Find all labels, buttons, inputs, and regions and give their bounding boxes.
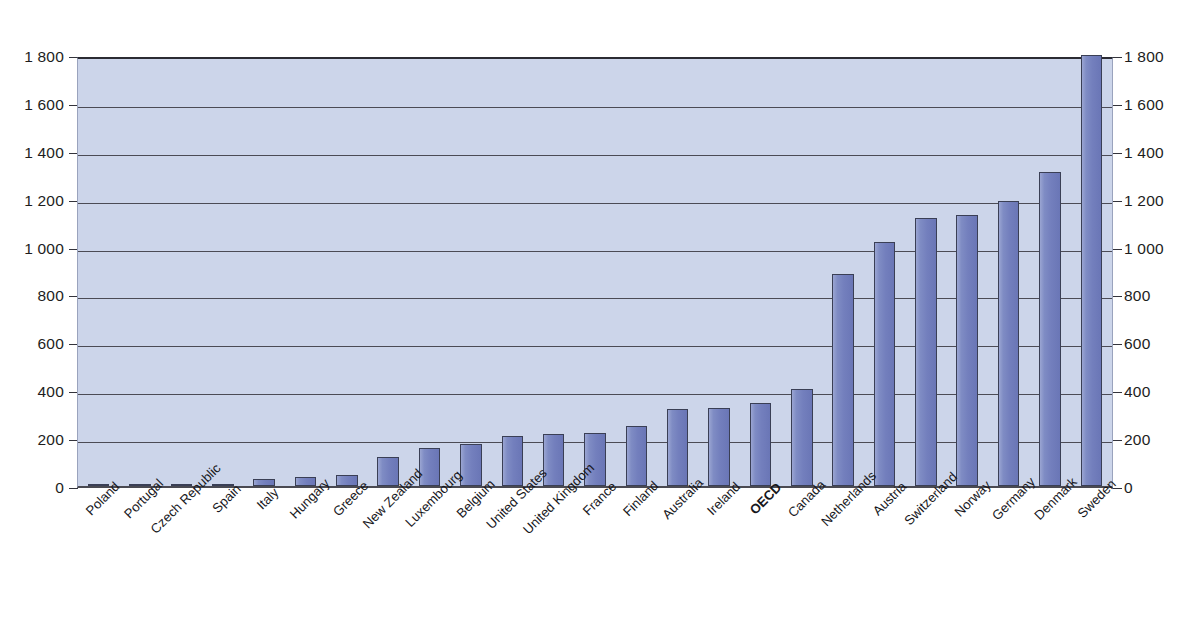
bar-ireland — [708, 408, 730, 486]
bar-slot — [740, 59, 781, 486]
bar-finland — [626, 426, 648, 486]
x-label-italy: Italy — [255, 485, 281, 511]
y-tick-left-600: 600 — [2, 336, 64, 352]
y-tick-left-800: 800 — [2, 288, 64, 304]
x-slot: Sweden — [1072, 490, 1113, 620]
bar-slot — [450, 59, 491, 486]
bar-slot — [905, 59, 946, 486]
y-tick-left-1600: 1 600 — [2, 97, 64, 113]
y-tick-right-1600: 1 600 — [1124, 97, 1186, 113]
bar-germany — [998, 201, 1020, 486]
y-tick-right-800: 800 — [1124, 288, 1186, 304]
bar-sweden — [1081, 55, 1103, 486]
tick-mark — [1113, 344, 1122, 345]
tick-mark — [1113, 249, 1122, 250]
x-slot: Portugal — [118, 490, 159, 620]
x-slot: Poland — [77, 490, 118, 620]
y-tick-right-1400: 1 400 — [1124, 145, 1186, 161]
bar-norway — [956, 215, 978, 486]
bar-slot — [533, 59, 574, 486]
tick-mark — [1113, 57, 1122, 58]
x-slot: Netherlands — [823, 490, 864, 620]
y-tick-right-1000: 1 000 — [1124, 241, 1186, 257]
y-tick-left-0: 0 — [2, 480, 64, 496]
bar-slot — [119, 59, 160, 486]
tick-mark — [1113, 105, 1122, 106]
x-slot: United Kingdom — [533, 490, 574, 620]
bar-slot — [161, 59, 202, 486]
x-slot: Belgium — [450, 490, 491, 620]
y-tick-left-1200: 1 200 — [2, 193, 64, 209]
bar-slot — [202, 59, 243, 486]
x-slot: Italy — [243, 490, 284, 620]
tick-mark — [1113, 440, 1122, 441]
bar-slot — [409, 59, 450, 486]
bar-slot — [822, 59, 863, 486]
plot-area — [77, 57, 1113, 488]
bar-australia — [667, 409, 689, 486]
y-tick-left-1000: 1 000 — [2, 241, 64, 257]
x-axis-category-labels: PolandPortugalCzech RepublicSpainItalyHu… — [77, 490, 1113, 620]
bar-slot — [492, 59, 533, 486]
y-tick-right-200: 200 — [1124, 432, 1186, 448]
bar-slot — [574, 59, 615, 486]
y-tick-right-0: 0 — [1124, 480, 1186, 496]
bar-netherlands — [832, 274, 854, 486]
tick-mark — [69, 488, 78, 489]
x-slot: United States — [491, 490, 532, 620]
tick-mark — [1113, 201, 1122, 202]
bar-slot — [285, 59, 326, 486]
bar-luxembourg — [419, 448, 441, 486]
x-slot: France — [574, 490, 615, 620]
x-slot: Ireland — [699, 490, 740, 620]
bar-switzerland — [915, 218, 937, 486]
bar-canada — [791, 389, 813, 486]
bar-chart: 1 8001 6001 4001 2001 0008006004002000 1… — [0, 0, 1195, 626]
bar-oecd — [750, 403, 772, 486]
bar-series — [78, 59, 1112, 486]
bar-slot — [947, 59, 988, 486]
bar-belgium — [460, 444, 482, 486]
y-tick-right-400: 400 — [1124, 384, 1186, 400]
bar-slot — [657, 59, 698, 486]
y-tick-right-600: 600 — [1124, 336, 1186, 352]
y-tick-right-1800: 1 800 — [1124, 49, 1186, 65]
bar-slot — [368, 59, 409, 486]
bar-slot — [78, 59, 119, 486]
x-slot: Czech Republic — [160, 490, 201, 620]
x-slot: OECD — [740, 490, 781, 620]
bar-denmark — [1039, 172, 1061, 486]
x-slot: Germany — [989, 490, 1030, 620]
x-slot: New Zealand — [367, 490, 408, 620]
x-slot: Spain — [201, 490, 242, 620]
y-tick-left-200: 200 — [2, 432, 64, 448]
bar-slot — [1029, 59, 1070, 486]
bar-slot — [616, 59, 657, 486]
bar-slot — [326, 59, 367, 486]
y-tick-left-1400: 1 400 — [2, 145, 64, 161]
bar-united-states — [502, 436, 524, 486]
tick-mark — [1113, 296, 1122, 297]
x-slot: Norway — [947, 490, 988, 620]
bar-austria — [874, 242, 896, 486]
bar-new-zealand — [377, 457, 399, 486]
x-slot: Switzerland — [906, 490, 947, 620]
bar-slot — [698, 59, 739, 486]
x-slot: Denmark — [1030, 490, 1071, 620]
tick-mark — [1113, 153, 1122, 154]
x-slot: Canada — [781, 490, 822, 620]
x-slot: Greece — [326, 490, 367, 620]
y-tick-left-1800: 1 800 — [2, 49, 64, 65]
x-slot: Austria — [864, 490, 905, 620]
bar-slot — [864, 59, 905, 486]
bar-slot — [988, 59, 1029, 486]
y-tick-right-1200: 1 200 — [1124, 193, 1186, 209]
x-slot: Hungary — [284, 490, 325, 620]
x-slot: Australia — [657, 490, 698, 620]
tick-mark — [1113, 392, 1122, 393]
bar-slot — [243, 59, 284, 486]
bar-slot — [1071, 59, 1112, 486]
bar-slot — [781, 59, 822, 486]
x-slot: Finland — [616, 490, 657, 620]
x-slot: Luxembourg — [409, 490, 450, 620]
